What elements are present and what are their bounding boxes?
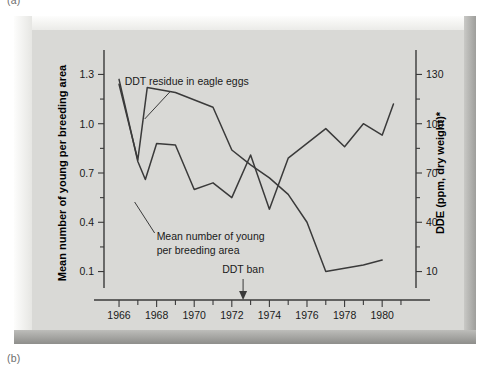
y2-tick-label: 130	[426, 68, 444, 80]
figure-root: (a) 0.10.40.71.01.3104070100130196619681…	[0, 0, 492, 371]
part-label-a: (a)	[7, 0, 20, 6]
chart-frame: 0.10.40.71.01.31040701001301966196819701…	[14, 16, 476, 344]
y-tick-label: 1.0	[79, 118, 94, 130]
x-tick-label: 1976	[295, 309, 319, 321]
annotation-ddt-residue: DDT residue in eagle eggs	[125, 75, 249, 87]
y-tick-label: 0.7	[79, 167, 94, 179]
x-tick-label: 1974	[258, 309, 282, 321]
y-tick-label: 1.3	[79, 68, 94, 80]
ddt-ban-arrow-head	[239, 291, 247, 300]
y2-axis-title: DDE (ppm, dry weight)*	[434, 111, 446, 234]
y2-tick-label: 10	[426, 265, 438, 277]
frame-edge-top	[14, 16, 476, 30]
frame-edge-bottom	[14, 330, 476, 344]
x-tick-label: 1978	[333, 309, 357, 321]
y-axis-title: Mean number of young per breeding area	[56, 64, 68, 281]
annotation-mean-young-line1: Mean number of young	[157, 230, 265, 242]
x-tick-label: 1980	[370, 309, 394, 321]
annotation-ddt-ban: DDT ban	[222, 263, 264, 275]
x-tick-label: 1968	[145, 309, 169, 321]
annotation-mean-young-line2: per breeding area	[157, 244, 240, 256]
y-tick-label: 0.4	[79, 216, 94, 228]
frame-edge-left	[14, 16, 32, 344]
x-tick-label: 1972	[220, 309, 244, 321]
series-mean-young	[119, 79, 393, 209]
leader-mean-young	[135, 202, 155, 233]
part-label-b: (b)	[7, 352, 20, 364]
x-tick-label: 1970	[183, 309, 207, 321]
chart-svg: 0.10.40.71.01.31040701001301966196819701…	[32, 30, 464, 330]
x-tick-label: 1966	[107, 309, 131, 321]
frame-edge-right	[464, 16, 476, 344]
y-tick-label: 0.1	[79, 265, 94, 277]
x-axis-title: Year	[240, 328, 264, 330]
leader-ddt-residue	[145, 91, 171, 119]
